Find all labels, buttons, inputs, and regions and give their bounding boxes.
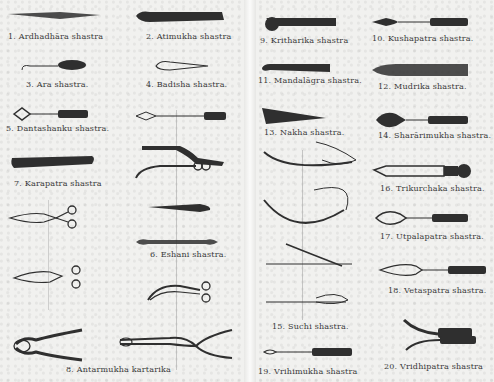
instrument-illustrations-left	[0, 0, 244, 382]
instrument-label-20: 20. Vridhipatra shastra	[384, 362, 483, 371]
instrument-label-8: 8. Antarmukha kartarika	[66, 365, 171, 374]
document-page: 1. Ardhadhāra shastra 2. Atimukha shastr…	[0, 0, 494, 382]
instrument-label-3: 3. Ara shastra.	[26, 80, 89, 89]
book-gutter	[244, 0, 256, 382]
instrument-label-7: 7. Karapatra shastra	[14, 179, 102, 188]
instrument-label-6: 6. Eshani shastra.	[150, 250, 226, 259]
instrument-label-10: 10. Kushapatra shastra.	[372, 34, 474, 43]
instrument-label-18: 18. Vetaspatra shastra.	[388, 286, 486, 295]
instrument-label-5: 5. Dantashanku shastra.	[6, 124, 109, 133]
instrument-label-1: 1. Ardhadhāra shastra	[8, 32, 103, 41]
instrument-label-13: 13. Nakha shastra.	[264, 128, 344, 137]
instrument-label-11: 11. Mandalāgra shastra.	[258, 76, 362, 85]
instrument-label-4: 4. Badisha shastra.	[146, 80, 227, 89]
instrument-label-15: 15. Suchi shastra.	[272, 322, 349, 331]
instrument-label-16: 16. Trikurchaka shastra.	[380, 184, 485, 193]
instrument-label-17: 17. Utpalapatra shastra.	[380, 232, 484, 241]
instrument-label-14: 14. Sharārimukha shastra.	[378, 131, 491, 140]
instrument-label-12: 12. Mudrika shastra.	[378, 82, 467, 91]
instrument-label-2: 2. Atimukha shastra	[146, 32, 231, 41]
instrument-label-9: 9. Kritharika shastra	[260, 36, 348, 45]
instrument-label-19: 19. Vrihimukha shastra	[258, 367, 358, 376]
